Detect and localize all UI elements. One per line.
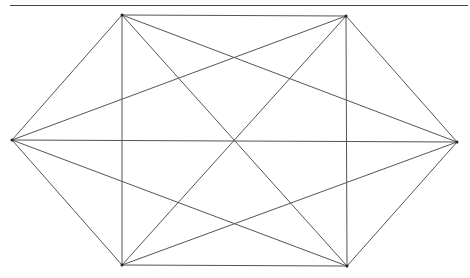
edge-BF [12, 16, 346, 140]
edge-AB [122, 15, 346, 16]
vertex-D [346, 265, 349, 268]
edge-AF [12, 15, 122, 140]
vertex-C [456, 141, 459, 144]
edge-BC [346, 16, 457, 142]
edge-DF [12, 140, 347, 266]
vertex-B [345, 15, 348, 18]
complete-graph-diagram [0, 0, 470, 278]
edge-CD [347, 142, 457, 266]
vertex-E [121, 264, 124, 267]
edge-EF [12, 140, 122, 265]
edge-CE [122, 142, 457, 265]
vertex-A [121, 14, 124, 17]
edge-DE [122, 265, 347, 266]
edge-BD [346, 16, 347, 266]
vertex-F [11, 139, 14, 142]
